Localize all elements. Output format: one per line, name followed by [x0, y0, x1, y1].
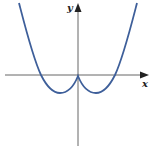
graph-canvas [0, 0, 152, 150]
x-axis-label: x [142, 78, 148, 89]
function-graph: y x [0, 0, 152, 150]
y-axis-label: y [67, 2, 73, 13]
y-axis-arrow-icon [75, 3, 82, 12]
